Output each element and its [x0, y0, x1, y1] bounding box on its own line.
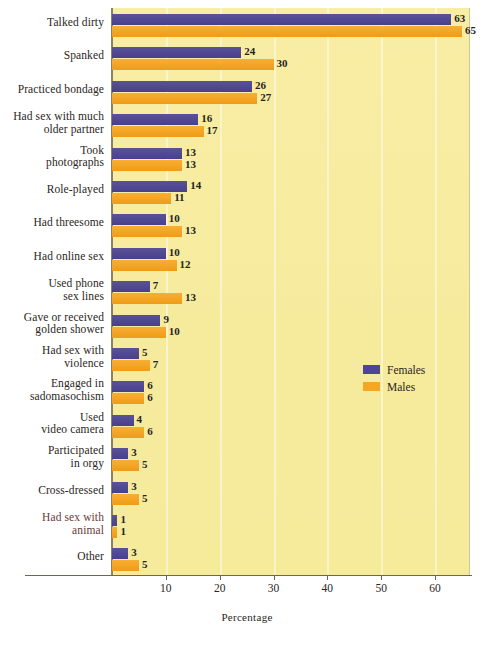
category-label: Gave or receivedgolden shower: [0, 311, 104, 336]
bar-value-males: 13: [185, 291, 196, 303]
bar-value-females: 4: [137, 413, 143, 425]
bar-value-females: 1: [120, 513, 126, 525]
bar-value-males: 5: [142, 558, 148, 570]
bar-value-females: 3: [131, 546, 137, 558]
bar-value-females: 3: [131, 480, 137, 492]
legend-swatch-icon: [363, 365, 380, 374]
chart-row: Role-played1411: [0, 175, 494, 210]
bar-females: [112, 415, 134, 426]
category-label: Usedvideo camera: [0, 411, 104, 436]
bar-value-females: 5: [142, 346, 148, 358]
bar-value-females: 9: [163, 313, 169, 325]
bar-females: [112, 148, 182, 159]
bar-males: [112, 226, 182, 237]
bar-females: [112, 281, 150, 292]
category-label: Talked dirty: [0, 16, 104, 29]
x-tick-label: 30: [254, 582, 294, 594]
x-tick: [166, 575, 167, 580]
bar-value-males: 65: [465, 24, 476, 36]
category-label: Used phonesex lines: [0, 277, 104, 302]
chart-legend: FemalesMales: [363, 362, 425, 396]
bar-males: [112, 427, 144, 438]
bar-value-males: 1: [120, 525, 126, 537]
bar-males: [112, 360, 150, 371]
bar-males: [112, 293, 182, 304]
bar-males: [112, 59, 274, 70]
bar-value-males: 27: [260, 91, 271, 103]
category-label: Had online sex: [0, 250, 104, 263]
bar-females: [112, 214, 166, 225]
chart-row: Had online sex1012: [0, 242, 494, 277]
bar-males: [112, 193, 171, 204]
bar-value-females: 10: [169, 246, 180, 258]
chart-row: Talked dirty6365: [0, 8, 494, 43]
x-tick: [220, 575, 221, 580]
bar-value-males: 5: [142, 458, 148, 470]
x-tick-label: 40: [307, 582, 347, 594]
category-label: Engaged insadomasochism: [0, 377, 104, 402]
x-axis-title: Percentage: [0, 611, 494, 623]
bar-value-females: 14: [190, 179, 201, 191]
bar-value-males: 6: [147, 391, 153, 403]
bar-males: [112, 494, 139, 505]
bar-females: [112, 448, 128, 459]
category-label: Had threesome: [0, 216, 104, 229]
legend-item-males: Males: [363, 379, 425, 394]
bar-value-males: 10: [169, 325, 180, 337]
chart-row: Spanked2430: [0, 41, 494, 76]
chart-row: Cross-dressed35: [0, 476, 494, 511]
bar-males: [112, 460, 139, 471]
chart-row: Tookphotographs1313: [0, 142, 494, 177]
bar-females: [112, 14, 451, 25]
bar-value-males: 12: [180, 258, 191, 270]
bar-value-males: 17: [207, 124, 218, 136]
bar-value-males: 30: [277, 57, 288, 69]
bar-value-females: 13: [185, 146, 196, 158]
chart-row: Gave or receivedgolden shower910: [0, 309, 494, 344]
chart-row: Usedvideo camera46: [0, 409, 494, 444]
category-label: Had sex withviolence: [0, 344, 104, 369]
chart-row: Practiced bondage2627: [0, 75, 494, 110]
bar-females: [112, 381, 144, 392]
bar-females: [112, 81, 252, 92]
x-tick: [435, 575, 436, 580]
bar-females: [112, 482, 128, 493]
legend-swatch-icon: [363, 382, 380, 391]
chart-row: Other35: [0, 542, 494, 577]
category-label: Spanked: [0, 49, 104, 62]
bar-males: [112, 527, 117, 538]
chart-row: Participatedin orgy35: [0, 442, 494, 477]
bar-value-males: 7: [153, 358, 159, 370]
bar-females: [112, 348, 139, 359]
category-label: Tookphotographs: [0, 144, 104, 169]
bar-males: [112, 393, 144, 404]
bar-males: [112, 327, 166, 338]
bar-value-females: 26: [255, 79, 266, 91]
bar-females: [112, 114, 198, 125]
category-label: Role-played: [0, 183, 104, 196]
bar-males: [112, 93, 257, 104]
bar-chart: Talked dirty6365Spanked2430Practiced bon…: [0, 0, 494, 652]
bar-females: [112, 47, 241, 58]
chart-row: Used phonesex lines713: [0, 275, 494, 310]
x-tick-label: 60: [415, 582, 455, 594]
category-label: Participatedin orgy: [0, 444, 104, 469]
bar-value-females: 16: [201, 112, 212, 124]
bar-males: [112, 560, 139, 571]
category-label: Practiced bondage: [0, 83, 104, 96]
bar-males: [112, 26, 462, 37]
category-label: Cross-dressed: [0, 484, 104, 497]
x-tick-label: 10: [146, 582, 186, 594]
x-tick-label: 50: [361, 582, 401, 594]
x-tick-label: 20: [200, 582, 240, 594]
x-tick: [327, 575, 328, 580]
bar-value-males: 13: [185, 224, 196, 236]
bar-males: [112, 260, 177, 271]
bar-value-females: 7: [153, 279, 159, 291]
legend-item-females: Females: [363, 362, 425, 377]
legend-label: Females: [387, 364, 425, 376]
chart-row: Had sex with mucholder partner1617: [0, 108, 494, 143]
bar-value-males: 11: [174, 191, 184, 203]
category-label: Had sex withanimal: [0, 511, 104, 536]
bar-males: [112, 126, 204, 137]
